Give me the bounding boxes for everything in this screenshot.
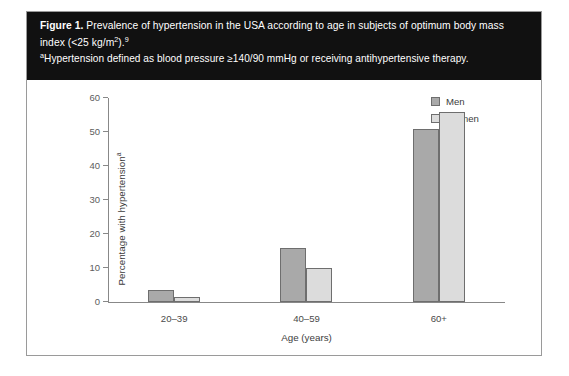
figure-number-label: Figure 1.	[40, 20, 83, 31]
footnote-text: Hypertension defined as blood pressure ≥…	[44, 53, 469, 64]
x-axis-title: Age (years)	[108, 332, 505, 343]
y-tick-label: 10	[89, 262, 100, 273]
figure-frame: Figure 1. Prevalence of hypertension in …	[26, 11, 542, 356]
x-category-label-1: 20–39	[108, 313, 240, 324]
bar-women-3[interactable]	[439, 112, 465, 302]
figure-caption-band: Figure 1. Prevalence of hypertension in …	[27, 12, 541, 80]
caption-reference-marker: 9	[125, 34, 129, 43]
bar-men-2[interactable]	[280, 248, 306, 302]
bar-men-1[interactable]	[148, 290, 174, 302]
bar-group-2: 40–59	[240, 98, 372, 302]
y-tick-label: 40	[89, 160, 100, 171]
bar-women-1[interactable]	[174, 297, 200, 302]
y-tick-label: 0	[95, 296, 100, 307]
axis-area: 0102030405060 20–3940–5960+	[108, 98, 505, 303]
y-tick-label: 50	[89, 126, 100, 137]
x-axis-line	[108, 302, 505, 303]
y-tick-label: 60	[89, 92, 100, 103]
x-category-label-2: 40–59	[240, 313, 372, 324]
y-tick-label: 30	[89, 194, 100, 205]
caption-line-1: Figure 1. Prevalence of hypertension in …	[40, 18, 528, 35]
plot-region: Men Women Percentage with hypertensiona …	[27, 80, 541, 357]
y-tick-label: 20	[89, 228, 100, 239]
bar-men-3[interactable]	[413, 129, 439, 302]
caption-line-2: index (<25 kg/m2).9	[40, 35, 528, 52]
caption-footnote: aHypertension defined as blood pressure …	[40, 51, 528, 68]
bar-women-2[interactable]	[306, 268, 332, 302]
x-category-label-3: 60+	[373, 313, 505, 324]
bar-group-3: 60+	[373, 98, 505, 302]
caption-text-line-2-pre: index (<25 kg/m	[40, 37, 114, 48]
caption-text-line-1: Prevalence of hypertension in the USA ac…	[86, 20, 504, 31]
bar-group-1: 20–39	[108, 98, 240, 302]
